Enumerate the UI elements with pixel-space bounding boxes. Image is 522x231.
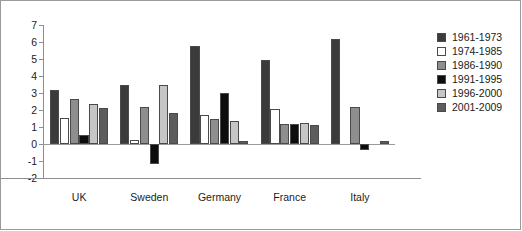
y-axis-tick-label: 1 (31, 122, 37, 133)
legend-label: 1986-1990 (452, 60, 502, 71)
x-axis-category-label: Sweden (114, 191, 184, 203)
bar (50, 90, 59, 144)
legend-item: 1996-2000 (437, 86, 502, 100)
bar (261, 60, 270, 144)
legend-item: 2001-2009 (437, 100, 502, 114)
legend-label: 1991-1995 (452, 74, 502, 85)
bar (70, 99, 79, 144)
y-axis-tick (39, 25, 43, 26)
y-axis-tick (39, 59, 43, 60)
bar (350, 107, 359, 144)
x-axis-category-label: Italy (325, 191, 395, 203)
y-axis-tick-label: 4 (31, 71, 37, 82)
bar (239, 141, 248, 144)
bar (270, 109, 279, 144)
legend-swatch-icon (437, 75, 446, 84)
legend-item: 1961-1973 (437, 30, 502, 44)
y-axis-tick (39, 161, 43, 162)
plot-area: 76543210-1-2 UKSwedenGermanyFranceItaly (43, 25, 395, 178)
legend-label: 1961-1973 (452, 32, 502, 43)
bar (79, 135, 88, 144)
bar-group: France (255, 25, 325, 178)
y-axis-tick (39, 127, 43, 128)
x-axis-category-label: Germany (184, 191, 254, 203)
bar-group: Germany (184, 25, 254, 178)
bar (380, 141, 389, 144)
legend-swatch-icon (437, 89, 446, 98)
y-axis-tick-label: 3 (31, 88, 37, 99)
y-axis-tick-label: 5 (31, 54, 37, 65)
bar (280, 124, 289, 144)
legend-label: 1974-1985 (452, 46, 502, 57)
x-axis-category-label: France (255, 191, 325, 203)
y-axis-tick-label: 6 (31, 37, 37, 48)
bar (150, 144, 159, 164)
bar (99, 108, 108, 144)
legend-swatch-icon (437, 103, 446, 112)
legend-swatch-icon (437, 47, 446, 56)
chart-frame: 76543210-1-2 UKSwedenGermanyFranceItaly … (0, 0, 521, 230)
y-axis-tick (39, 76, 43, 77)
bar (169, 113, 178, 144)
legend-label: 2001-2009 (452, 102, 502, 113)
legend-item: 1974-1985 (437, 44, 502, 58)
bar (159, 85, 168, 144)
legend-item: 1991-1995 (437, 72, 502, 86)
y-axis-tick (39, 110, 43, 111)
x-axis-category-label: UK (44, 191, 114, 203)
bar (230, 121, 239, 144)
y-axis-tick-label: 2 (31, 105, 37, 116)
bar (60, 118, 69, 144)
bar (89, 104, 98, 144)
bar (310, 125, 319, 144)
bar (190, 46, 199, 144)
bar-groups: UKSwedenGermanyFranceItaly (44, 25, 395, 178)
bar-group: Italy (325, 25, 395, 178)
bar (331, 39, 340, 144)
bar (200, 115, 209, 144)
chart-legend: 1961-19731974-19851986-19901991-19951996… (437, 30, 502, 115)
x-axis-line (1, 178, 421, 179)
y-axis-tick-label: -1 (28, 156, 37, 167)
bar (300, 123, 309, 144)
bar (220, 93, 229, 144)
legend-item: 1986-1990 (437, 58, 502, 72)
bar (140, 107, 149, 144)
bar (130, 140, 139, 144)
legend-swatch-icon (437, 33, 446, 42)
y-axis-tick-label: 7 (31, 20, 37, 31)
bar (120, 85, 129, 144)
bar-group: Sweden (114, 25, 184, 178)
legend-label: 1996-2000 (452, 88, 502, 99)
y-axis-tick (39, 93, 43, 94)
y-axis-tick-label: 0 (31, 139, 37, 150)
bar (290, 124, 299, 144)
y-axis-tick (39, 42, 43, 43)
bar-group: UK (44, 25, 114, 178)
legend-swatch-icon (437, 61, 446, 70)
bar (210, 119, 219, 145)
bar (360, 144, 369, 150)
